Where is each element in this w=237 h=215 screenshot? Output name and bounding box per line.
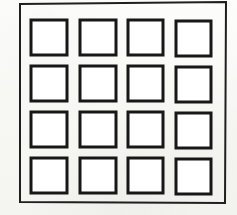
grid-cell bbox=[31, 112, 67, 147]
grid-cell bbox=[80, 66, 116, 101]
grid-cell bbox=[31, 66, 67, 101]
square-grid bbox=[31, 20, 211, 194]
grid-cell bbox=[128, 20, 163, 55]
grid-cell bbox=[176, 159, 211, 194]
figure-canvas bbox=[0, 0, 237, 215]
grid-cell bbox=[31, 158, 67, 193]
grid-cell bbox=[80, 112, 116, 147]
grid-cell bbox=[176, 113, 211, 148]
grid-cell bbox=[80, 20, 116, 55]
grid-cell bbox=[176, 21, 211, 56]
grid-cell bbox=[128, 112, 163, 147]
grid-cell bbox=[176, 67, 211, 102]
grid-cell bbox=[128, 66, 163, 101]
grid-cell bbox=[80, 158, 116, 193]
grid-figure bbox=[0, 0, 237, 215]
grid-cell bbox=[128, 158, 163, 193]
grid-cell bbox=[31, 20, 67, 55]
